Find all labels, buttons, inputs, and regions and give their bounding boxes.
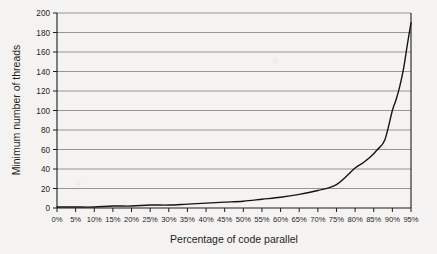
y-tick-label: 120 bbox=[36, 87, 50, 96]
y-tick-label: 100 bbox=[36, 107, 50, 116]
x-tick-label: 10% bbox=[87, 215, 102, 224]
x-tick-label: 35% bbox=[180, 215, 195, 224]
x-tick-label: 45% bbox=[217, 215, 232, 224]
x-tick-label: 85% bbox=[366, 215, 381, 224]
chart-figure: 020406080100120140160180200 0%5%10%15%20… bbox=[0, 0, 437, 254]
x-tick-label: 75% bbox=[329, 215, 344, 224]
y-tick-label: 200 bbox=[36, 9, 50, 18]
y-tick-label: 160 bbox=[36, 48, 50, 57]
x-axis-title: Percentage of code parallel bbox=[170, 233, 298, 245]
x-tick-label: 95% bbox=[403, 215, 418, 224]
y-tick-label: 40 bbox=[41, 165, 51, 174]
y-tick-label: 0 bbox=[45, 204, 50, 213]
x-tick-label: 0% bbox=[52, 215, 63, 224]
x-tick-label: 65% bbox=[292, 215, 307, 224]
threads-vs-parallelism-line-chart: 020406080100120140160180200 0%5%10%15%20… bbox=[0, 0, 437, 254]
x-tick-label: 5% bbox=[70, 215, 81, 224]
x-tick-label: 20% bbox=[124, 215, 139, 224]
y-tick-label: 60 bbox=[41, 146, 51, 155]
x-tick-label: 70% bbox=[310, 215, 325, 224]
x-tick-label: 25% bbox=[143, 215, 158, 224]
y-tick-label: 180 bbox=[36, 29, 50, 38]
y-axis-title: Minimum number of threads bbox=[10, 45, 22, 176]
x-tick-label: 40% bbox=[198, 215, 213, 224]
x-tick-label: 80% bbox=[348, 215, 363, 224]
x-tick-label: 90% bbox=[385, 215, 400, 224]
x-tick-label: 55% bbox=[254, 215, 269, 224]
x-tick-label: 30% bbox=[161, 215, 176, 224]
x-tick-label: 50% bbox=[236, 215, 251, 224]
x-tick-label: 15% bbox=[105, 215, 120, 224]
y-tick-label: 80 bbox=[41, 126, 51, 135]
y-tick-label: 20 bbox=[41, 185, 51, 194]
x-tick-label: 60% bbox=[273, 215, 288, 224]
y-tick-label: 140 bbox=[36, 68, 50, 77]
